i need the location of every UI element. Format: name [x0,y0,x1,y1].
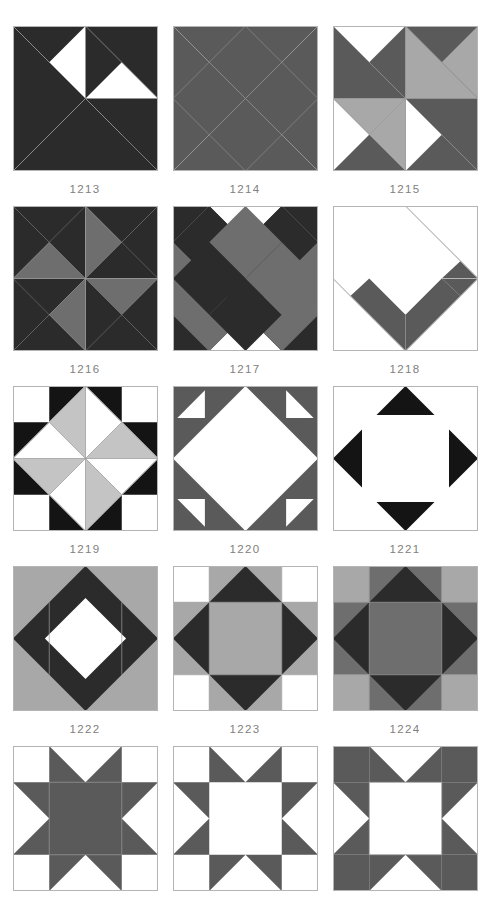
quilt-block-catalog-page: 1213121412151216121712181219122012211222… [0,0,490,917]
block-label-1215: 1215 [389,184,420,197]
block-row: 122212231224 [0,566,490,737]
block-cell-1222[interactable]: 1222 [10,566,160,737]
block-frame-1222[interactable] [13,566,158,711]
block-row: 122512261227 [0,746,490,917]
quilt-block-1226 [173,746,318,891]
block-frame-1221[interactable] [333,386,478,531]
block-cell-1219[interactable]: 1219 [10,386,160,557]
patch-rect [369,782,442,855]
block-frame-1213[interactable] [13,26,158,171]
block-label-1221: 1221 [389,544,420,557]
block-cell-1217[interactable]: 1217 [170,206,320,377]
block-cell-1218[interactable]: 1218 [330,206,480,377]
quilt-block-1216 [13,206,158,351]
block-label-1214: 1214 [229,184,260,197]
block-cell-1215[interactable]: 1215 [330,26,480,197]
patch-rect [333,675,369,711]
patch-rect [441,675,477,711]
block-frame-1217[interactable] [173,206,318,351]
block-cell-1224[interactable]: 1224 [330,566,480,737]
block-label-1223: 1223 [229,724,260,737]
block-row: 121912201221 [0,386,490,557]
block-frame-1214[interactable] [173,26,318,171]
quilt-block-1221 [333,386,478,531]
block-cell-1214[interactable]: 1214 [170,26,320,197]
patch-rect [369,602,442,675]
block-frame-1218[interactable] [333,206,478,351]
patch-rect [173,566,209,602]
block-label-1224: 1224 [389,724,420,737]
block-frame-1224[interactable] [333,566,478,711]
patch-rect [173,675,209,711]
block-frame-1216[interactable] [13,206,158,351]
block-label-1213: 1213 [69,184,100,197]
quilt-block-1219 [13,386,158,531]
quilt-block-1218 [333,206,478,351]
patch-rect [441,746,477,782]
patch-rect [333,746,369,782]
block-row: 121312141215 [0,26,490,197]
block-frame-1220[interactable] [173,386,318,531]
block-cell-1227[interactable]: 1227 [330,746,480,917]
patch-rect [281,675,317,711]
block-cell-1213[interactable]: 1213 [10,26,160,197]
quilt-block-1225 [13,746,158,891]
block-label-1219: 1219 [69,544,100,557]
block-cell-1226[interactable]: 1226 [170,746,320,917]
block-frame-1226[interactable] [173,746,318,891]
quilt-block-1215 [333,26,478,171]
block-frame-1219[interactable] [13,386,158,531]
block-cell-1216[interactable]: 1216 [10,206,160,377]
quilt-block-1217 [173,206,318,351]
quilt-block-1222 [13,566,158,711]
block-cell-1223[interactable]: 1223 [170,566,320,737]
patch-rect [333,855,369,891]
block-frame-1223[interactable] [173,566,318,711]
block-label-1222: 1222 [69,724,100,737]
block-frame-1225[interactable] [13,746,158,891]
quilt-block-1214 [173,26,318,171]
patch-rect [362,415,449,502]
block-label-1216: 1216 [69,364,100,377]
patch-rect [209,602,282,675]
quilt-block-1213 [13,26,158,171]
block-cell-1225[interactable]: 1225 [10,746,160,917]
quilt-block-1220 [173,386,318,531]
quilt-block-1227 [333,746,478,891]
patch-rect [49,782,122,855]
block-label-1220: 1220 [229,544,260,557]
block-cell-1220[interactable]: 1220 [170,386,320,557]
patch-rect [441,855,477,891]
patch-rect [441,566,477,602]
block-label-1217: 1217 [229,364,260,377]
quilt-block-1224 [333,566,478,711]
block-cell-1221[interactable]: 1221 [330,386,480,557]
block-label-1218: 1218 [389,364,420,377]
block-frame-1227[interactable] [333,746,478,891]
patch-rect [281,566,317,602]
patch-rect [209,782,282,855]
quilt-block-1223 [173,566,318,711]
block-row: 121612171218 [0,206,490,377]
block-frame-1215[interactable] [333,26,478,171]
patch-rect [333,566,369,602]
